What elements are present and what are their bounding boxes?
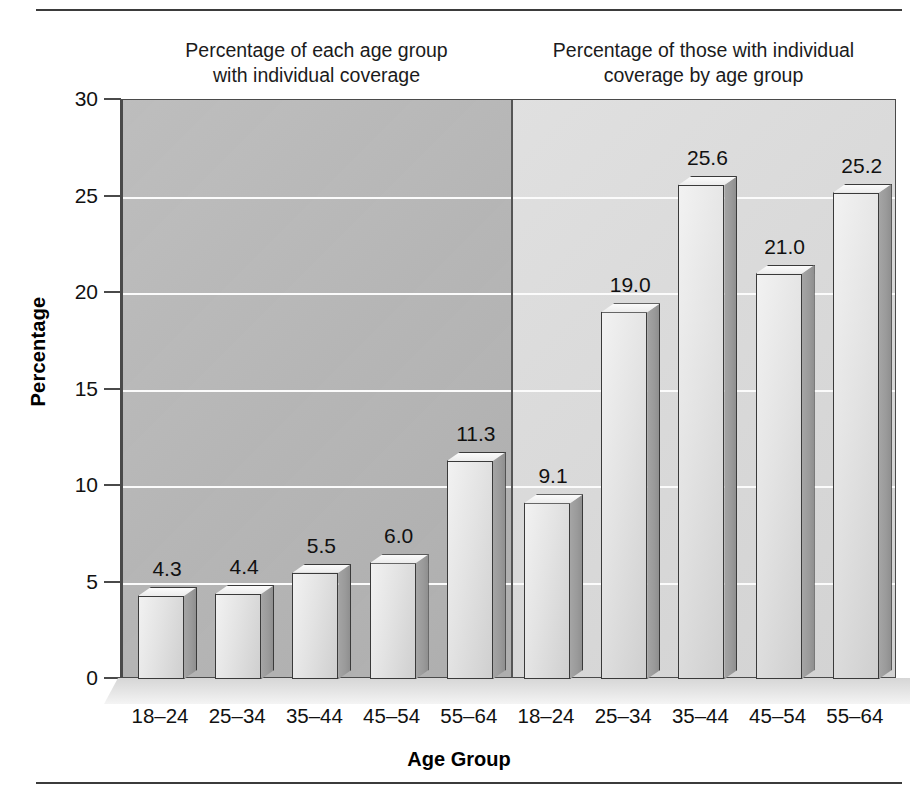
bar-value-label: 19.0	[589, 274, 671, 295]
bar-front-face	[756, 274, 802, 679]
bar-front-face	[601, 312, 647, 679]
y-axis-tick	[104, 581, 121, 583]
bar: 4.4	[215, 585, 274, 679]
bar-front-face	[370, 563, 416, 679]
x-axis-tick-label: 35–44	[657, 706, 743, 727]
bar-side-face	[261, 585, 274, 679]
y-axis-tick-label: 25	[38, 185, 98, 206]
y-axis-tick	[104, 195, 121, 197]
y-axis-tick	[104, 98, 121, 100]
bar: 4.3	[138, 587, 197, 679]
bar: 5.5	[292, 564, 351, 679]
bar-front-face	[292, 573, 338, 679]
x-axis-tick-label: 55–64	[426, 706, 512, 727]
y-axis-tick-label: 10	[38, 474, 98, 495]
x-axis-tick-label: 25–34	[194, 706, 280, 727]
bar: 9.1	[524, 494, 583, 679]
chart-floor	[104, 678, 910, 704]
bar-front-face	[215, 594, 261, 679]
x-axis-tick-label: 55–64	[812, 706, 898, 727]
bar-value-label: 4.4	[203, 556, 285, 577]
bar: 11.3	[447, 452, 506, 679]
y-axis-tick-label: 5	[38, 571, 98, 592]
bar-value-label: 5.5	[280, 535, 362, 556]
bar-value-label: 4.3	[126, 558, 208, 579]
y-axis-tick-label: 0	[38, 667, 98, 688]
y-axis-tick-label: 30	[38, 88, 98, 109]
chart-figure: Percentage of each age group with indivi…	[0, 0, 918, 799]
panel-caption-right: Percentage of those with individual cove…	[511, 38, 896, 88]
x-axis-tick-label: 18–24	[503, 706, 589, 727]
bar: 25.2	[833, 184, 892, 679]
bar-front-face	[524, 503, 570, 679]
bar-side-face	[802, 265, 815, 679]
y-axis-tick	[104, 291, 121, 293]
x-axis-tick-label: 45–54	[735, 706, 821, 727]
bar-side-face	[184, 587, 197, 679]
y-axis-tick	[104, 484, 121, 486]
x-axis-tick-label: 45–54	[349, 706, 435, 727]
top-divider-rule	[36, 9, 902, 11]
bar-value-label: 6.0	[358, 525, 440, 546]
bar-side-face	[570, 494, 583, 679]
x-axis-tick-label: 18–24	[117, 706, 203, 727]
bar-front-face	[447, 461, 493, 679]
bar-side-face	[493, 452, 506, 679]
bar: 19.0	[601, 303, 660, 679]
bar-value-label: 11.3	[435, 423, 517, 444]
bar-value-label: 25.2	[821, 155, 903, 176]
bar-value-label: 21.0	[744, 236, 826, 257]
y-axis-tick	[104, 388, 121, 390]
panel-divider	[511, 100, 513, 677]
gridline	[123, 197, 895, 199]
x-axis-tick-labels: 18–2425–3435–4445–5455–6418–2425–3435–44…	[122, 706, 896, 736]
bar: 21.0	[756, 265, 815, 679]
bar: 6.0	[370, 554, 429, 679]
plot-area: 4.34.45.56.011.39.119.025.621.025.2	[122, 99, 896, 678]
bar-side-face	[416, 554, 429, 679]
x-axis-title: Age Group	[0, 748, 918, 771]
bar-side-face	[647, 303, 660, 679]
bar-value-label: 25.6	[666, 147, 748, 168]
bar-front-face	[678, 185, 724, 679]
y-axis-title: Percentage	[27, 252, 50, 452]
x-axis-tick-label: 35–44	[271, 706, 357, 727]
x-axis-tick-label: 25–34	[580, 706, 666, 727]
bar-side-face	[338, 564, 351, 679]
panel-caption-left: Percentage of each age group with indivi…	[122, 38, 511, 88]
bar-side-face	[879, 184, 892, 679]
bottom-divider-rule	[36, 782, 902, 784]
bar-front-face	[833, 193, 879, 679]
bar-side-face	[724, 176, 737, 679]
bar-value-label: 9.1	[512, 465, 594, 486]
bar-front-face	[138, 596, 184, 679]
bar: 25.6	[678, 176, 737, 679]
